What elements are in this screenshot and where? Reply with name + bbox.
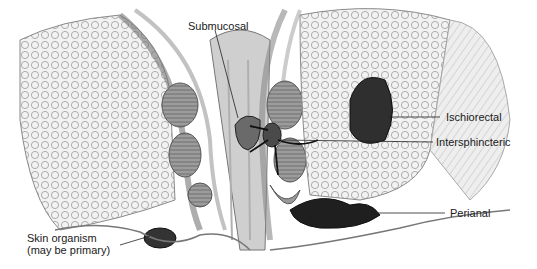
right-sphincter-upper — [267, 81, 303, 129]
label-skin-organism-line1: Skin organism — [27, 232, 97, 244]
skin-organism-abscess — [144, 228, 176, 248]
label-intersphincteric: Intersphincteric — [436, 136, 511, 148]
left-sphincter-upper — [162, 83, 198, 127]
label-ischiorectal: Ischiorectal — [446, 111, 502, 123]
left-sphincter-lower — [169, 133, 201, 177]
anatomy-diagram: Submucosal Ischiorectal Intersphincteric… — [0, 0, 537, 269]
perianal-abscess — [290, 199, 380, 229]
label-submucosal: Submucosal — [188, 20, 249, 32]
anatomy-illustration — [0, 0, 537, 269]
label-skin-organism-line2: (may be primary) — [27, 244, 110, 256]
ischiorectal-abscess — [350, 78, 393, 144]
intersphincteric-abscess — [263, 123, 281, 147]
label-perianal: Perianal — [450, 207, 490, 219]
